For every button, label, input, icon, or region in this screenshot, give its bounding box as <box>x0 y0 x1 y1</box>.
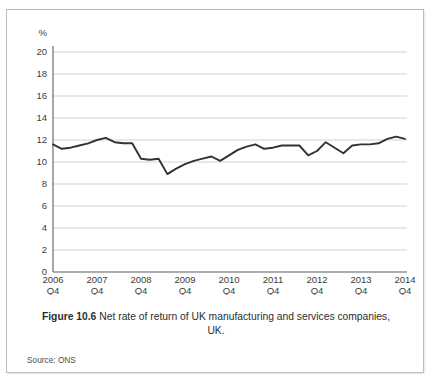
y-axis-unit-label: % <box>39 27 48 38</box>
y-axis-tick-label: 12 <box>36 134 47 145</box>
x-axis-quarter-label: Q4 <box>399 285 412 295</box>
y-axis-tick-label: 2 <box>42 244 47 255</box>
y-axis-tick-label: 8 <box>42 178 47 189</box>
gridlines <box>53 52 407 250</box>
x-axis-quarter-label: Q4 <box>91 285 104 295</box>
y-axis-tick-label: 6 <box>42 200 47 211</box>
line-chart: 02468101214161820 % 2006Q42007Q42008Q420… <box>7 10 425 295</box>
source-note: Source: ONS <box>27 355 76 365</box>
figure-caption: Figure 10.6Net rate of return of UK manu… <box>7 310 425 338</box>
x-axis-quarter-label: Q4 <box>179 285 192 295</box>
x-axis-year-label: 2011 <box>263 274 283 285</box>
x-axis-year-label: 2014 <box>394 274 415 285</box>
y-axis-tick-labels: 02468101214161820 <box>36 46 47 277</box>
y-axis-tick-label: 18 <box>36 68 47 79</box>
chart-plot-area: 02468101214161820 % 2006Q42007Q42008Q420… <box>7 10 425 295</box>
caption-line: Figure 10.6Net rate of return of UK manu… <box>41 310 391 338</box>
y-axis-tick-label: 14 <box>36 112 47 123</box>
x-axis-quarter-label: Q4 <box>223 285 236 295</box>
y-axis-tick-label: 10 <box>36 156 47 167</box>
x-axis-year-label: 2010 <box>218 274 239 285</box>
x-axis-quarter-label: Q4 <box>355 285 368 295</box>
y-axis-tick-label: 20 <box>36 46 47 57</box>
x-axis-year-label: 2012 <box>306 274 327 285</box>
x-axis-quarter-label: Q4 <box>311 285 324 295</box>
x-axis-quarter-label: Q4 <box>135 285 148 295</box>
x-axis-year-label: 2009 <box>174 274 195 285</box>
x-axis-quarter-label: Q4 <box>47 285 60 295</box>
y-axis-tick-label: 16 <box>36 90 47 101</box>
y-axis-tick-label: 4 <box>42 222 47 233</box>
caption-figure-number: Figure 10.6 <box>42 311 96 322</box>
x-axis-year-label: 2006 <box>42 274 63 285</box>
x-axis-year-label: 2007 <box>86 274 107 285</box>
figure-container: 02468101214161820 % 2006Q42007Q42008Q420… <box>6 9 424 373</box>
x-axis-year-label: 2013 <box>350 274 371 285</box>
x-axis-tick-labels: 2006Q42007Q42008Q42009Q42010Q42011Q42012… <box>42 274 415 295</box>
x-axis-year-label: 2008 <box>130 274 151 285</box>
data-series-line <box>53 137 405 174</box>
caption-body-text: Net rate of return of UK manufacturing a… <box>99 311 390 336</box>
x-axis-quarter-label: Q4 <box>267 285 280 295</box>
